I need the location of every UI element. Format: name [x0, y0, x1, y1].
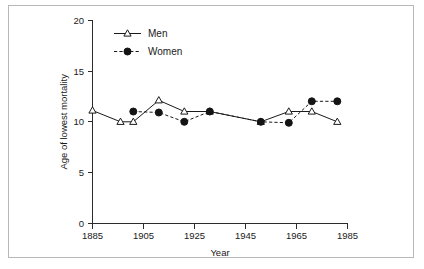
- y-axis: [88, 20, 93, 223]
- legend-marker-men-triangle-icon: [124, 30, 131, 36]
- legend-item-men: Men: [114, 28, 167, 39]
- legend-marker-women-circle-icon: [124, 48, 131, 55]
- y-tick-label-15: 15: [73, 66, 84, 77]
- data-point-men: [181, 108, 188, 114]
- data-point-women: [285, 119, 292, 126]
- data-point-women: [206, 108, 213, 115]
- data-point-women: [334, 98, 341, 105]
- data-point-men: [155, 97, 162, 103]
- y-tick-label-10: 10: [73, 116, 84, 127]
- legend-label-men: Men: [148, 28, 167, 39]
- x-axis-title: Year: [210, 247, 229, 258]
- x-tick-label-1905: 1905: [133, 230, 154, 241]
- data-point-women: [257, 118, 264, 125]
- series-men: [89, 97, 341, 125]
- x-tick-label-1985: 1985: [337, 230, 358, 241]
- data-point-men: [89, 107, 96, 113]
- line-chart-plot: 20 15 10 5 0 1885 1905 1925 1945 1965 19…: [0, 0, 424, 269]
- x-tick-label-1965: 1965: [286, 230, 307, 241]
- chart-figure: 20 15 10 5 0 1885 1905 1925 1945 1965 19…: [0, 0, 424, 269]
- x-tick-label-1945: 1945: [235, 230, 256, 241]
- x-tick-label-1885: 1885: [82, 230, 103, 241]
- data-point-men: [285, 108, 292, 114]
- legend-item-women: Women: [114, 46, 182, 57]
- data-point-men: [308, 108, 315, 114]
- y-tick-label-0: 0: [79, 218, 84, 229]
- x-tick-label-1925: 1925: [184, 230, 205, 241]
- legend-label-women: Women: [148, 46, 182, 57]
- y-tick-label-20: 20: [73, 15, 84, 26]
- chart-legend: Men Women: [114, 28, 182, 57]
- y-tick-label-5: 5: [79, 167, 84, 178]
- y-axis-title: Age of lowest mortality: [58, 74, 69, 170]
- x-axis: [93, 224, 348, 229]
- data-point-women: [130, 108, 137, 115]
- data-point-women: [181, 118, 188, 125]
- data-point-women: [155, 109, 162, 116]
- data-point-women: [308, 98, 315, 105]
